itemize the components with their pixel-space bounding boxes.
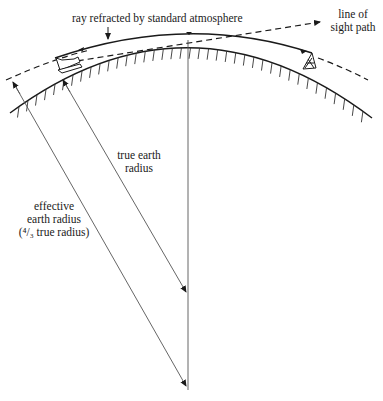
effective-radius-top-arrow — [13, 82, 20, 94]
target-tower-icon — [303, 53, 316, 69]
true-radius-label-line1: true earth — [104, 149, 174, 162]
true-radius-top-arrow — [63, 80, 70, 92]
refracted-ray — [55, 34, 312, 58]
effective-radius-label-line1: effective — [14, 200, 94, 213]
earth-surface — [10, 48, 372, 123]
true-radius-line — [63, 80, 186, 292]
effective-radius-label: effective earth radius (⁴/₃ true radius) — [14, 200, 94, 239]
line-of-sight-label-line1: line of — [324, 8, 382, 21]
true-radius-label-line2: radius — [104, 162, 174, 175]
effective-radius-label-line3: (⁴/₃ true radius) — [14, 226, 94, 239]
true-radius-label: true earth radius — [104, 149, 174, 175]
line-of-sight-label: line of sight path — [324, 8, 382, 34]
effective-earth-arc-right — [318, 58, 368, 80]
ship-icon — [56, 57, 82, 73]
line-of-sight-label-line2: sight path — [324, 21, 382, 34]
effective-radius-label-line2: earth radius — [14, 213, 94, 226]
ray-label: ray refracted by standard atmosphere — [72, 12, 243, 25]
